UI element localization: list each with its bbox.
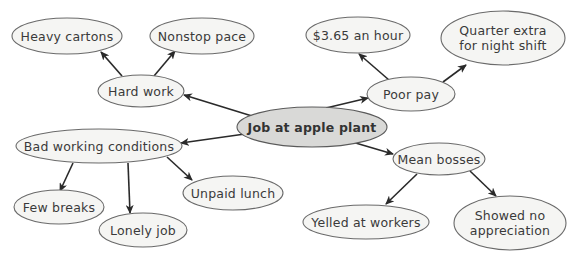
arrow-bad-conditions-to-unpaid-lunch bbox=[167, 157, 192, 180]
node-label-bad-conditions: Bad working conditions bbox=[24, 139, 174, 154]
arrow-hard-work-to-heavy-cartons bbox=[101, 52, 122, 76]
node-label-yelled: Yelled at workers bbox=[311, 215, 420, 230]
node-label-no-appreciation: Showed no appreciation bbox=[470, 208, 550, 238]
node-label-unpaid-lunch: Unpaid lunch bbox=[191, 186, 276, 201]
arrow-poor-pay-to-wage bbox=[359, 54, 389, 80]
arrow-bad-conditions-to-lonely-job bbox=[128, 163, 130, 213]
node-label-wage: $3.65 an hour bbox=[313, 28, 404, 43]
node-label-nonstop-pace: Nonstop pace bbox=[158, 29, 246, 44]
arrow-poor-pay-to-night-shift bbox=[443, 65, 466, 82]
node-label-few-breaks: Few breaks bbox=[23, 200, 95, 215]
node-label-hard-work: Hard work bbox=[108, 84, 174, 99]
node-label-poor-pay: Poor pay bbox=[383, 87, 439, 102]
arrow-job-to-poor-pay bbox=[326, 98, 368, 108]
central-node-label: Job at apple plant bbox=[248, 120, 377, 135]
arrow-hard-work-to-nonstop-pace bbox=[154, 51, 175, 76]
arrow-bad-conditions-to-few-breaks bbox=[60, 163, 73, 191]
node-label-mean-bosses: Mean bosses bbox=[397, 152, 480, 167]
arrow-mean-bosses-to-yelled bbox=[386, 174, 417, 204]
concept-map: Job at apple plant Hard work Heavy carto… bbox=[0, 0, 580, 262]
node-label-night-shift: Quarter extra for night shift bbox=[459, 23, 546, 53]
node-label-lonely-job: Lonely job bbox=[110, 223, 176, 238]
arrow-mean-bosses-to-no-appreciation bbox=[470, 171, 496, 196]
arrow-job-to-hard-work bbox=[184, 95, 252, 116]
node-label-heavy-cartons: Heavy cartons bbox=[21, 29, 114, 44]
